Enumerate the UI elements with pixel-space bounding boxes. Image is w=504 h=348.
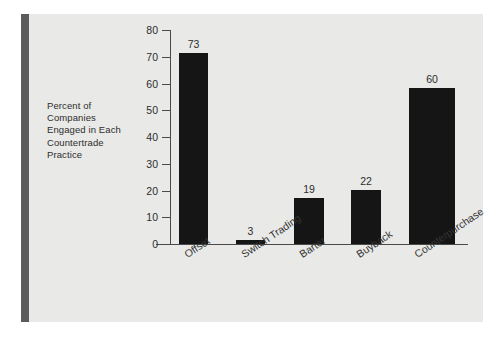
figure-root: Percent of Companies Engaged in Each Cou… — [0, 0, 504, 348]
y-axis-tick — [162, 57, 170, 58]
y-axis-tick — [162, 217, 170, 218]
y-axis-tick — [162, 110, 170, 111]
y-axis-tick-label: 40 — [134, 131, 158, 143]
y-axis-tick-label: 10 — [134, 211, 158, 223]
y-axis-tick-label: 50 — [134, 104, 158, 116]
y-axis-tick-label: 70 — [134, 51, 158, 63]
bar-value-label: 3 — [248, 225, 254, 237]
bar — [409, 88, 455, 244]
bar-value-label: 60 — [426, 73, 438, 85]
y-axis-line — [170, 30, 171, 245]
y-axis-tick-label: 60 — [134, 78, 158, 90]
y-axis-tick-label: 80 — [134, 24, 158, 36]
bar-value-label: 19 — [303, 183, 315, 195]
y-axis-tick-label: 20 — [134, 185, 158, 197]
bar-value-label: 22 — [360, 175, 372, 187]
y-axis-tick — [162, 191, 170, 192]
y-axis-tick — [162, 84, 170, 85]
bar-value-label: 73 — [188, 38, 200, 50]
y-axis-tick — [162, 30, 170, 31]
bar — [179, 53, 208, 244]
y-axis-tick-label: 0 — [134, 238, 158, 250]
plot-area: 01020304050607080 733192260 OffsetSwitch… — [0, 0, 504, 348]
y-axis-tick — [162, 244, 170, 245]
y-axis-tick-label: 30 — [134, 158, 158, 170]
y-axis-tick — [162, 164, 170, 165]
y-axis-tick — [162, 137, 170, 138]
